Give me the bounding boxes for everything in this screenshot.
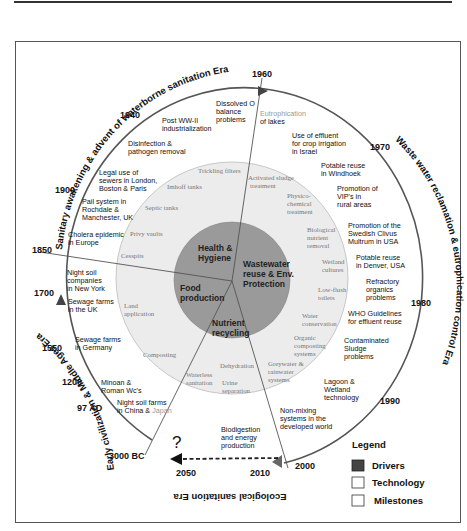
driver-health-hygiene: Health & Hygiene (198, 243, 232, 263)
svg-text:composting: composting (294, 342, 326, 349)
legend-title: Legend (352, 439, 386, 450)
svg-text:Water: Water (302, 312, 319, 319)
milestone-pail-system: Pail system in Rochdale & Manchester, UK (82, 197, 133, 222)
svg-text:problems: problems (366, 293, 396, 302)
year-2010: 2010 (250, 468, 270, 478)
svg-text:application: application (124, 310, 155, 317)
svg-text:Low-flush: Low-flush (318, 286, 347, 293)
svg-text:rural areas: rural areas (337, 200, 372, 209)
year-1990: 1990 (380, 396, 400, 406)
year-1940: 1940 (120, 110, 140, 120)
tech-composting: Composting (143, 351, 177, 358)
svg-text:in China & Japan: in China & Japan (117, 406, 172, 415)
tech-privy-vaults: Privy vaults (130, 230, 163, 237)
svg-text:Boston & Paris: Boston & Paris (99, 184, 147, 193)
svg-text:problems: problems (216, 115, 246, 124)
year-2050: 2050 (176, 468, 196, 478)
svg-text:toilets: toilets (318, 294, 335, 301)
tech-wetland-cultures: Wetland cultures (322, 258, 345, 273)
tech-trickling-filters: Trickling filters (198, 167, 241, 174)
question-mark: ? (172, 433, 181, 452)
year-3000bc: 3000 BC (109, 451, 145, 461)
era-wastewater-reclamation: Waste water reclamation & eutrophication… (394, 134, 466, 368)
svg-text:Urine: Urine (222, 379, 237, 386)
svg-text:Multrum in USA: Multrum in USA (348, 237, 399, 246)
svg-text:Organic: Organic (294, 334, 316, 341)
svg-text:in Windhoek: in Windhoek (321, 169, 361, 178)
svg-text:treatment: treatment (250, 182, 276, 189)
svg-text:industrialization: industrialization (162, 124, 212, 133)
svg-text:Activated sludge: Activated sludge (248, 174, 294, 181)
milestone-lagoon-wetland: Lagoon & Wetland technology (324, 377, 359, 402)
milestone-cholera: Cholera epidemic in Europe (68, 230, 124, 247)
svg-text:of lakes: of lakes (260, 117, 285, 126)
svg-text:Biological: Biological (307, 226, 335, 233)
svg-text:pathogen removal: pathogen removal (128, 147, 186, 156)
tech-dehydration: Dehydration (220, 362, 255, 369)
milestone-contaminated-sludge: Contaminated Sludge problems (344, 336, 389, 361)
milestone-night-soil-ny: Night soil companies in New York (67, 268, 105, 293)
year-1960: 1960 (252, 69, 272, 79)
milestone-sewage-farms-germany: Sewage farms in Germany (75, 335, 121, 352)
svg-text:conservation: conservation (302, 320, 337, 327)
svg-text:in Germany: in Germany (75, 343, 113, 352)
svg-text:production: production (221, 441, 255, 450)
year-97ad: 97 AD (77, 403, 103, 413)
legend: Legend Drivers Technology Milestones (352, 439, 425, 506)
svg-text:Hygiene: Hygiene (198, 253, 231, 263)
driver-nutrient-recycling: Nutrient recycling (212, 318, 249, 338)
year-1900: 1900 (55, 185, 75, 195)
future-dashed-line (182, 458, 278, 459)
milestone-disinfection: Disinfection & pathogen removal (128, 139, 186, 156)
milestone-minoan-roman: Minoan & Roman Wc's (101, 378, 142, 395)
milestone-denver: Potable reuse in Denver, USA (356, 253, 405, 270)
svg-text:cultures: cultures (322, 266, 344, 273)
svg-text:Wetland: Wetland (322, 258, 345, 265)
legend-label-technology: Technology (372, 477, 425, 488)
milestone-refractory: Refractory organics problems (366, 277, 400, 302)
svg-text:production: production (180, 293, 224, 303)
svg-text:treatment: treatment (287, 208, 313, 215)
svg-text:developed world: developed world (280, 422, 332, 431)
svg-text:Physico-: Physico- (287, 192, 312, 199)
svg-text:problems: problems (344, 352, 374, 361)
arrow-future-icon (170, 453, 182, 465)
legend-label-milestones: Milestones (374, 495, 423, 506)
milestone-dissolved-oxygen: Dissolved O balance problems (216, 99, 255, 124)
year-1200: 1200 (62, 377, 82, 387)
milestone-night-soil-china-japan: Night soil farms in China & Japan (117, 398, 172, 415)
year-1850: 1850 (32, 245, 52, 255)
svg-text:Land: Land (124, 302, 139, 309)
milestone-eutrophication: Eutrophication of lakes (260, 109, 306, 126)
milestone-legal-sewers: Legal use of sewers in London, Boston & … (99, 168, 157, 193)
svg-text:Roman Wc's: Roman Wc's (101, 386, 142, 395)
milestone-effluent-israel: Use of effluent for crop irrigation in I… (292, 131, 346, 156)
svg-text:rainwater: rainwater (268, 368, 294, 375)
legend-swatch-technology (352, 477, 364, 488)
arrow-1700-icon (56, 294, 66, 305)
svg-text:in Israel: in Israel (292, 147, 318, 156)
milestone-sewage-farms-uk: Sewage farms in the UK (68, 297, 114, 314)
era-ecological-sanitation: Ecological sanitation Era (173, 492, 287, 503)
svg-text:Manchester, UK: Manchester, UK (82, 213, 133, 222)
year-2000: 2000 (295, 461, 315, 471)
svg-text:in the UK: in the UK (68, 305, 98, 314)
svg-text:Wastewater: Wastewater (243, 259, 291, 269)
svg-text:nutrient: nutrient (307, 234, 328, 241)
milestone-vip-promotion: Promotion of VIP's in rural areas (337, 184, 378, 209)
arrow-1960-icon (258, 86, 268, 96)
svg-text:technology: technology (324, 393, 359, 402)
year-1980: 1980 (411, 298, 431, 308)
milestone-who-guidelines: WHO Guidelines for effluent reuse (348, 309, 402, 326)
svg-text:systems: systems (294, 350, 316, 357)
svg-text:Health &: Health & (198, 243, 232, 253)
svg-text:reuse & Env.: reuse & Env. (243, 269, 294, 279)
tech-septic-tanks: Septic tanks (145, 204, 178, 211)
milestone-clivus-multrum: Promotion of the Swedish Clivus Multrum … (348, 221, 401, 246)
svg-text:in Europe: in Europe (68, 238, 99, 247)
legend-swatch-milestones (352, 495, 364, 506)
svg-text:in Denver, USA: in Denver, USA (356, 261, 405, 270)
tech-physico-chemical: Physico- chemical treatment (287, 192, 313, 215)
milestone-post-ww2: Post WW-II industrialization (162, 116, 212, 133)
year-1700: 1700 (34, 288, 54, 298)
